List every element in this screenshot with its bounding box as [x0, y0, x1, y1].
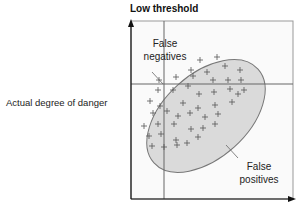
false-negatives-label-1: False — [153, 38, 178, 49]
false-negatives-label-2: negatives — [144, 51, 187, 62]
false-positives-label-1: False — [247, 161, 272, 172]
false-positives-label-2: positives — [240, 174, 279, 185]
signal-detection-diagram: False negatives False positives — [0, 0, 300, 207]
